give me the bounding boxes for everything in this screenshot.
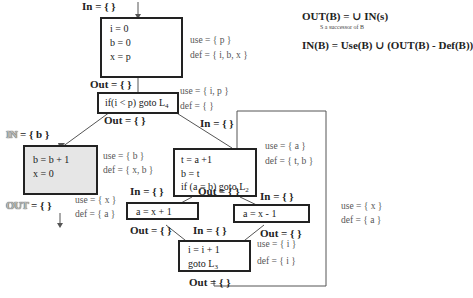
b1-line-2: b = 0 <box>110 36 173 50</box>
in-highlight: IN <box>6 128 17 140</box>
b5-line-1: a = x + 1 <box>136 205 189 219</box>
b4-use: use = { a } <box>265 139 306 153</box>
b6-line-1: a = x - 1 <box>243 207 300 221</box>
b6-use: use = { x } <box>341 199 382 213</box>
block-b2[interactable]: if(i < p) goto L4 <box>97 92 179 114</box>
block-b5[interactable]: a = x + 1 <box>126 202 199 220</box>
block-b3[interactable]: b = b + 1 x = 0 <box>23 145 98 195</box>
b4-label-sub: 2 <box>245 186 249 194</box>
b4-out-label: Out = { } <box>198 185 240 197</box>
b7-label-sub: 3 <box>214 263 218 271</box>
b3-in-label: IN = { b } <box>6 128 49 140</box>
out-equation: OUT(B) = ∪ IN(s) <box>302 10 388 23</box>
block-b6[interactable]: a = x - 1 <box>233 204 310 223</box>
out-highlight: OUT <box>6 199 28 211</box>
b5-def: def = { a } <box>75 207 115 221</box>
b1-out-label: Out = { } <box>90 78 132 90</box>
block-b1[interactable]: i = 0 b = 0 x = p <box>100 17 183 78</box>
b4-def: def = { t, b } <box>265 154 313 168</box>
b2-def: def = { } <box>180 99 214 113</box>
b7-line-1: i = i + 1 <box>188 243 241 257</box>
b2-use: use = { i, p } <box>180 84 229 98</box>
b4-in-label: In = { } <box>200 117 234 129</box>
b7-out-label: Out = { } <box>189 276 231 288</box>
b3-line-1: b = b + 1 <box>33 153 88 167</box>
b3-out-value: = { } <box>31 199 51 211</box>
b1-def: def = { i, b, x } <box>190 48 248 62</box>
b7-use: use = { i } <box>257 237 296 251</box>
b3-def: def = { x, b } <box>103 163 153 177</box>
b2-label-sub: 4 <box>165 102 169 110</box>
in-equation: IN(B) = Use(B) ∪ (OUT(B) - Def(B)) <box>302 39 473 52</box>
b4-line-1: t = a +1 <box>181 153 249 167</box>
b6-def: def = { a } <box>341 213 381 227</box>
out-equation-subscript: S a successor of B <box>320 24 364 30</box>
b7-def: def = { i } <box>257 254 296 268</box>
b1-line-3: x = p <box>110 50 173 64</box>
b3-out-label: OUT = { } <box>6 199 52 211</box>
b7-line-2: goto L <box>188 258 214 269</box>
b3-line-2: x = 0 <box>33 167 88 181</box>
b6-in-label: In = { } <box>260 190 294 202</box>
b5-in-label: In = { } <box>130 185 164 197</box>
b3-in-value: = { b } <box>20 128 49 140</box>
b5-out-label: Out = { } <box>130 224 172 236</box>
b1-in-label: In = { } <box>82 0 116 12</box>
b7-in-label: In = { } <box>193 224 227 236</box>
b2-out-left: Out = { } <box>104 114 146 126</box>
b5-use: use = { x } <box>75 193 116 207</box>
b1-line-1: i = 0 <box>110 22 173 36</box>
block-b7[interactable]: i = i + 1 goto L3 <box>178 240 251 272</box>
b4-line-2: b = t <box>181 167 249 181</box>
b2-line: if(i < p) goto L <box>105 97 165 108</box>
b3-use: use = { b } <box>103 149 144 163</box>
b1-use: use = { p } <box>190 33 231 47</box>
